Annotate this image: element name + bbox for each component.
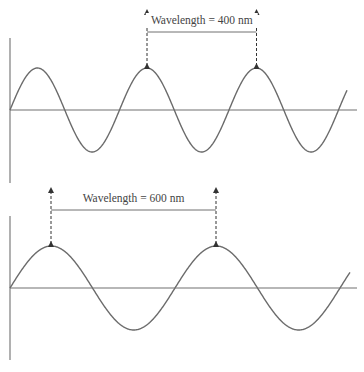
panel-top: Wavelength = 400 nm — [10, 12, 357, 183]
wavelength-label: Wavelength = 600 nm — [83, 192, 185, 205]
wavelength-comparison-diagram: Wavelength = 400 nm Wavelength = 600 nm — [0, 0, 364, 372]
wavelength-label: Wavelength = 400 nm — [151, 14, 253, 27]
panel-bottom: Wavelength = 600 nm — [10, 190, 357, 360]
